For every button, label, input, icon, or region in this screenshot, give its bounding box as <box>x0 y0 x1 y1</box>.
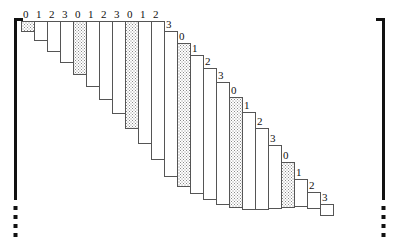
bar-rect <box>230 98 243 208</box>
bar-rect <box>74 22 87 75</box>
bar-label: 2 <box>49 9 55 20</box>
bar-label: 3 <box>322 192 328 203</box>
bar-label: 1 <box>140 9 146 20</box>
bar-rect <box>269 146 282 209</box>
bar-label: 0 <box>127 9 133 20</box>
bar-rect <box>256 129 269 210</box>
bar-label: 0 <box>23 9 29 20</box>
staircase-diagram: 012301230123012301230123 <box>0 0 399 245</box>
bar-label: 2 <box>205 56 211 67</box>
bar-label: 2 <box>309 180 315 191</box>
bar-rect <box>308 193 321 209</box>
bar-rect <box>152 22 165 160</box>
bar-rect <box>191 56 204 194</box>
bar-label: 1 <box>244 100 250 111</box>
bar-label: 2 <box>101 9 107 20</box>
bar-rect <box>35 22 48 41</box>
bar-rect <box>139 22 152 144</box>
bar-rect <box>282 163 295 208</box>
bar-label: 3 <box>114 9 120 20</box>
bar-label: 3 <box>62 9 68 20</box>
bar-label: 3 <box>218 70 224 81</box>
bar-rect <box>126 22 139 129</box>
bar-label: 1 <box>296 167 302 178</box>
bar-label: 1 <box>88 9 94 20</box>
bar-rect <box>204 69 217 200</box>
bar-rect <box>178 44 191 187</box>
bar-rect <box>87 22 100 87</box>
bar-rect <box>100 22 113 100</box>
bar-label: 0 <box>231 85 237 96</box>
bar-layer <box>0 0 399 245</box>
bar-label: 1 <box>36 9 42 20</box>
bar-rect <box>113 22 126 114</box>
bar-label: 2 <box>257 116 263 127</box>
bar-label: 3 <box>166 19 172 30</box>
bar-rect <box>321 205 334 216</box>
bar-rect <box>48 22 61 52</box>
bar-label: 3 <box>270 133 276 144</box>
bar-label: 2 <box>153 9 159 20</box>
bar-rect <box>217 83 230 205</box>
bar-rect <box>22 22 35 32</box>
bar-label: 0 <box>283 150 289 161</box>
bar-label: 0 <box>75 9 81 20</box>
bar-rect <box>295 180 308 207</box>
bar-label: 0 <box>179 31 185 42</box>
bar-label: 1 <box>192 43 198 54</box>
bar-rect <box>243 113 256 210</box>
bar-rect <box>61 22 74 63</box>
bar-rect <box>165 32 178 177</box>
